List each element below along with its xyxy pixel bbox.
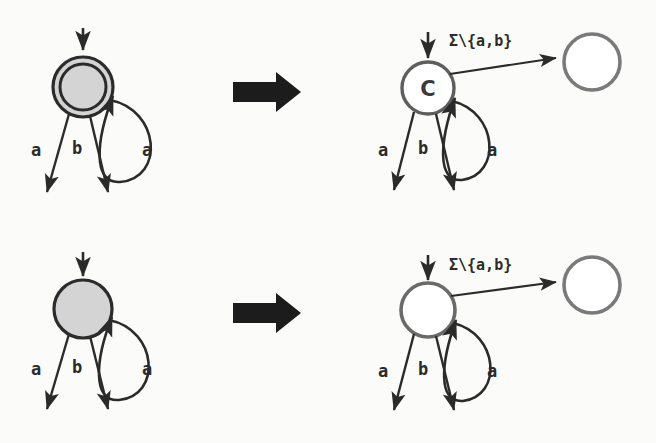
state-label-c: C [420,77,435,101]
row-accepting-before: a b a [31,28,152,192]
out-edge-b [436,336,454,410]
out-edge-a [394,112,414,190]
figure-canvas: a b a C Σ\{a,b} a b a [0,0,656,443]
self-loop-label-a: a [142,359,152,379]
edge-label-a: a [31,140,41,160]
out-edge-b [436,114,454,190]
self-loop-path [443,98,489,180]
thick-right-arrow [233,72,301,112]
row-nonaccepting-before: a b a [31,252,152,409]
sink-edge-label: Σ\{a,b} [449,256,512,274]
edge-label-b: b [418,359,428,379]
row-accepting-after: C Σ\{a,b} a b a [378,32,620,190]
state-diagram-svg: a b a C Σ\{a,b} a b a [0,0,656,443]
sink-state-circle [564,34,620,90]
state-circle [54,280,112,338]
edge-label-b: b [418,138,428,158]
self-loop-label-a: a [142,140,152,160]
state-inner-circle [60,64,106,110]
self-loop-label-a: a [487,361,497,381]
edge-label-a: a [31,359,41,379]
transform-arrow-row-nonaccepting [233,293,301,333]
edge-label-a: a [378,361,388,381]
edge-label-a: a [378,140,388,160]
out-edge-a [47,114,69,192]
row-nonaccepting-after: Σ\{a,b} a b a [378,255,620,410]
state-circle [401,283,455,337]
out-edge-b [90,336,108,409]
self-loop-path [444,320,490,401]
out-edge-a [394,334,414,410]
self-loop-label-a: a [487,140,497,160]
edge-label-b: b [72,138,82,158]
sink-edge-line [451,282,556,296]
sink-edge-label: Σ\{a,b} [449,32,512,50]
out-edge-b [90,116,108,192]
edge-label-b: b [72,357,82,377]
thick-right-arrow [233,293,301,333]
transform-arrow-row-accepting [233,72,301,112]
sink-state-circle [564,257,620,313]
out-edge-a [47,334,69,409]
sink-edge-line [450,58,556,74]
